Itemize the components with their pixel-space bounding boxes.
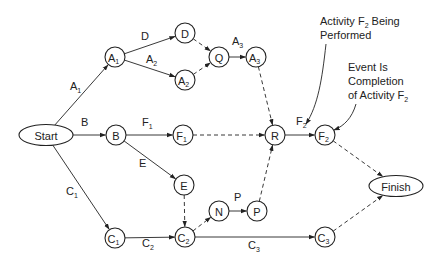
node-c2: C2 [175,227,195,247]
edge-label-C1-to-C2: C2 [142,237,154,251]
annotation-event-completion: Event Is Completion of Activity F2 [334,61,408,130]
annotation-line-3: of Activity F2 [348,89,408,103]
node-start: Start [19,125,73,146]
node-p: P [247,201,267,221]
callout-arrow-to-f2-activity [306,44,326,124]
edge-label-Q-to-A3: A3 [232,35,243,49]
svg-text:R: R [271,130,279,142]
edge-label-start-to-C1: C1 [66,185,78,199]
edge-A2-to-Q-dummy [193,63,210,75]
edge-C2-to-N-dummy [193,217,211,231]
node-e: E [174,175,194,195]
edge-label-N-to-P: P [234,191,241,203]
edge-label-start-to-B: B [81,116,88,128]
edge-label-B-to-E: E [139,157,146,169]
node-q: Q [209,47,229,67]
node-c3: C3 [315,227,335,247]
node-a1: A1 [105,47,125,67]
svg-text:D: D [181,28,189,40]
edge-A1-to-D [124,36,175,53]
edge-D-to-Q-dummy [193,39,210,51]
edge-E-to-C2-dummy [184,195,185,227]
node-a3: A3 [246,47,266,67]
annotation-line-2: Completion [348,75,404,87]
edge-label-C2-to-C3: C3 [248,239,260,253]
svg-text:P: P [253,206,260,218]
annotation-line-1: Activity F2 Being [320,15,400,29]
node-f2: F2 [315,125,335,145]
node-a2: A2 [175,70,195,90]
edge-label-A1-to-A2: A2 [146,53,157,67]
edge-F2-to-finish-dummy [333,141,383,177]
edge-label-B-to-F1: F1 [142,116,153,130]
svg-text:E: E [180,180,187,192]
node-r: R [265,125,285,145]
edge-A3-to-R-dummy [258,67,272,125]
edge-label-A1-to-D: D [141,30,149,42]
edge-start-to-C1 [53,145,109,229]
annotation-line-1: Event Is [348,61,388,73]
node-n: N [209,201,229,221]
edge-B-to-E [124,141,175,179]
edge-C3-to-finish-dummy [333,196,383,232]
node-c1: C1 [105,228,125,248]
node-b: B [106,125,126,145]
node-f1: F1 [173,125,193,145]
svg-text:N: N [215,206,223,218]
svg-text:Q: Q [215,52,224,64]
svg-text:Finish: Finish [381,181,410,193]
svg-text:B: B [112,130,119,142]
callout-arrow-to-f2-event [334,104,356,130]
edge-P-to-R-dummy [259,145,272,201]
nodes-layer: StartA1DA2QA3BF1RF2EC1C2NPC3Finish [19,23,423,248]
node-d: D [175,23,195,43]
edge-label-start-to-A1: A1 [70,80,81,94]
svg-text:Start: Start [34,130,57,142]
annotation-line-2: Performed [320,29,371,41]
node-finish: Finish [369,176,423,197]
pert-network-diagram: A1DA2A3BF1F2EC1C2PC3 StartA1DA2QA3BF1RF2… [0,0,441,266]
edge-label-R-to-F2: F2 [296,115,307,129]
